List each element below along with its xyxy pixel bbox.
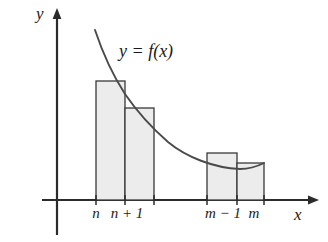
- y-axis-arrow-icon: [53, 8, 62, 19]
- x-axis: [42, 196, 319, 205]
- x-axis-label: x: [294, 206, 302, 223]
- bar-n-1: [125, 108, 154, 200]
- tick-label-m: m: [249, 206, 260, 221]
- x-axis-arrow-icon: [308, 196, 319, 205]
- diagram-canvas: [0, 0, 328, 242]
- curve-equation-label: y = f(x): [119, 42, 173, 60]
- tick-label-n-plus-1: n + 1: [111, 206, 144, 221]
- bar-m-2: [207, 153, 237, 200]
- math-diagram: y x y = f(x) n n + 1 m − 1 m: [0, 0, 328, 242]
- y-axis-label: y: [36, 5, 44, 22]
- tick-label-n: n: [92, 206, 100, 221]
- bar-n: [96, 81, 125, 200]
- tick-label-m-minus-1: m − 1: [205, 206, 241, 221]
